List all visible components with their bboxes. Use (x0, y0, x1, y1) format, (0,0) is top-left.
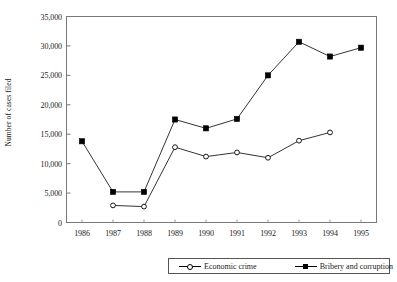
data-point-marker (203, 126, 208, 131)
data-point-marker (358, 45, 363, 50)
filled-square-marker-icon (295, 262, 317, 271)
data-point-marker (173, 145, 178, 150)
data-point-marker (142, 204, 147, 209)
data-point-marker (79, 139, 84, 144)
open-circle-marker-icon (179, 262, 201, 271)
data-point-marker (265, 73, 270, 78)
data-point-marker (234, 116, 239, 121)
data-point-marker (296, 39, 301, 44)
data-point-marker (110, 189, 115, 194)
data-point-marker (266, 155, 271, 160)
data-point-marker (328, 130, 333, 135)
data-point-marker (297, 138, 302, 143)
data-point-marker (204, 154, 209, 159)
data-point-marker (235, 150, 240, 155)
chart-legend: Economic crime Bribery and corruption (168, 258, 390, 274)
data-point-marker (111, 203, 116, 208)
data-point-marker (327, 54, 332, 59)
legend-label-economic-crime: Economic crime (204, 262, 257, 271)
data-point-marker (172, 117, 177, 122)
plot-area (0, 0, 397, 282)
legend-label-bribery-and-corruption: Bribery and corruption (320, 262, 393, 271)
legend-item-bribery-and-corruption: Bribery and corruption (295, 262, 393, 271)
line-chart: Number of cases filed 05,00010,00015,000… (0, 0, 397, 282)
legend-item-economic-crime: Economic crime (179, 262, 257, 271)
data-point-marker (141, 189, 146, 194)
